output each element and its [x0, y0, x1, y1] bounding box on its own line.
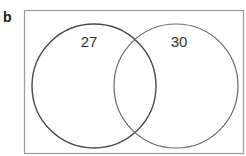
left-set-count: 27 [81, 33, 98, 50]
right-set-count: 30 [171, 33, 188, 50]
venn-diagram: 27 30 [0, 0, 246, 156]
